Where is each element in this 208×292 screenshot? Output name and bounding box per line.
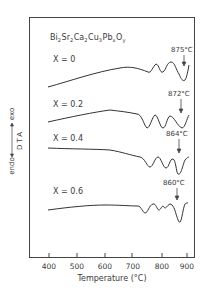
x-axis-ticks	[49, 253, 187, 257]
x-axis-tick-labels: 400 500 600 700 800 900	[42, 262, 195, 271]
x-axis-label: Temperature (°C)	[76, 274, 146, 283]
y-axis-label-group: endo exo DTA	[8, 108, 24, 175]
y-label-exo: exo	[8, 108, 16, 120]
curve-x02	[48, 110, 189, 128]
series-label-x04: X = 0.4	[53, 134, 83, 143]
curve-x04	[48, 148, 189, 174]
arrow-head-icon	[175, 196, 179, 200]
x-tick-700: 700	[126, 262, 141, 271]
y-label-dta: DTA	[16, 130, 24, 150]
peak-label-875: 875°C	[171, 46, 193, 54]
x-tick-900: 900	[180, 262, 195, 271]
series-label-x0: X = 0	[53, 55, 75, 64]
curve-x06	[48, 203, 188, 222]
y-axis-arrow-icon	[11, 123, 14, 157]
x-tick-400: 400	[42, 262, 57, 271]
arrow-head-icon	[177, 149, 181, 153]
dta-chart: Bi2 Sr2 Ca2 Cu3 Pbx Oy X = 0 X = 0.2 X =…	[0, 0, 208, 292]
peak-label-872: 872°C	[168, 90, 190, 98]
y-label-endo: endo	[8, 157, 16, 174]
series-label-x02: X = 0.2	[53, 100, 83, 109]
peak-label-860: 860°C	[163, 179, 185, 187]
x-tick-600: 600	[98, 262, 113, 271]
series-label-x06: X = 0.6	[53, 187, 83, 196]
curve-x0	[48, 62, 189, 87]
arrow-head-icon	[182, 62, 186, 66]
x-tick-800: 800	[155, 262, 170, 271]
x-tick-500: 500	[70, 262, 85, 271]
peak-label-864: 864°C	[166, 130, 188, 138]
formula-title: Bi2 Sr2 Ca2 Cu3 Pbx Oy	[50, 33, 125, 44]
arrow-head-icon	[179, 109, 183, 113]
